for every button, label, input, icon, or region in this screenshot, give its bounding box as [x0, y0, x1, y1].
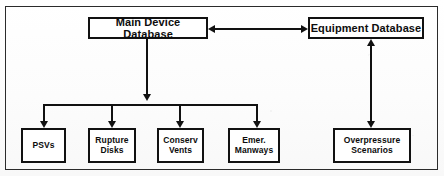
node-overpressure-scenarios-label: Overpressure Scenarios: [344, 136, 400, 155]
node-conserv-vents[interactable]: Conserv Vents: [157, 128, 204, 163]
node-main-device-database[interactable]: Main Device Database: [88, 17, 208, 39]
connector-bus-to-emer-manways-arrowhead: [253, 121, 261, 128]
diagram-screenshot: Main Device Database Equipment Database …: [0, 0, 444, 176]
connector-equipment-to-overpressure-line: [370, 45, 372, 122]
node-rupture-disks-label: Rupture Disks: [95, 136, 128, 155]
connector-main-to-equipment-arrowhead-right: [301, 25, 308, 33]
connector-bus-to-conserv-vents-line: [179, 104, 181, 121]
connector-equipment-to-overpressure-arrowhead-down: [367, 121, 375, 128]
node-psvs-label: PSVs: [32, 141, 54, 151]
connector-equipment-to-overpressure-arrowhead-up: [367, 39, 375, 46]
connector-main-to-equipment-line: [214, 28, 302, 30]
connector-bus-to-psvs-line: [43, 104, 45, 121]
node-equipment-database-label: Equipment Database: [311, 22, 422, 34]
connector-main-to-bus-line: [146, 39, 148, 95]
connector-bus-to-psvs-arrowhead: [40, 121, 48, 128]
connector-bus-to-rupture-disks-line: [111, 104, 113, 121]
node-emer-manways[interactable]: Emer. Manways: [228, 128, 280, 163]
node-rupture-disks[interactable]: Rupture Disks: [88, 128, 136, 163]
connector-bus-to-rupture-disks-arrowhead: [108, 121, 116, 128]
node-emer-manways-label: Emer. Manways: [235, 136, 274, 155]
connector-bus-to-conserv-vents-arrowhead: [176, 121, 184, 128]
node-main-device-database-label: Main Device Database: [90, 16, 206, 41]
connector-bus-to-emer-manways-line: [256, 104, 258, 121]
node-psvs[interactable]: PSVs: [21, 128, 66, 163]
connector-main-to-equipment-arrowhead-left: [208, 25, 215, 33]
node-equipment-database[interactable]: Equipment Database: [308, 17, 424, 39]
distribution-bus: [43, 104, 258, 106]
node-conserv-vents-label: Conserv Vents: [163, 136, 198, 155]
node-overpressure-scenarios[interactable]: Overpressure Scenarios: [333, 128, 411, 163]
connector-main-to-bus-arrowhead: [143, 94, 151, 101]
